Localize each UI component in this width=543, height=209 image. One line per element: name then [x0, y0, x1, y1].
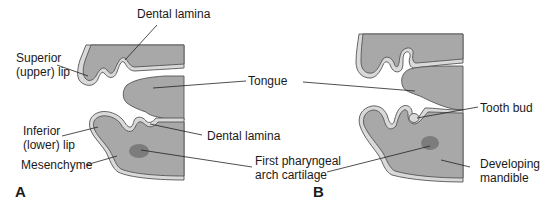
label-tongue: Tongue [248, 74, 288, 88]
label-superior-lip-1: Superior [16, 51, 61, 65]
panel-b: Tooth bud Developing mandible B [313, 34, 540, 200]
label-tooth-bud: Tooth bud [480, 101, 533, 115]
label-dental-lamina-top: Dental lamina [137, 7, 211, 21]
panel-a-label: A [15, 183, 26, 200]
label-mesenchyme: Mesenchyme [21, 158, 93, 172]
panel-a: Dental lamina Superior (upper) lip Infer… [15, 7, 281, 200]
label-dental-lamina-bottom: Dental lamina [207, 129, 281, 143]
label-developing-mandible-2: mandible [480, 171, 529, 185]
label-first-pharyngeal-2: arch cartilage [255, 168, 327, 182]
label-superior-lip-2: (upper) lip [16, 65, 70, 79]
panel-b-label: B [313, 183, 324, 200]
label-inferior-lip-1: Inferior [23, 124, 60, 138]
panel-b-tongue [402, 66, 463, 110]
panel-a-lower-jaw [89, 111, 184, 180]
embryo-oral-development-diagram: Dental lamina Superior (upper) lip Infer… [0, 0, 543, 209]
label-first-pharyngeal-1: First pharyngeal [255, 154, 341, 168]
label-developing-mandible-1: Developing [480, 157, 540, 171]
panel-a-tongue [123, 76, 184, 120]
panel-b-lower-jaw [359, 105, 463, 182]
label-inferior-lip-2: (lower) lip [23, 138, 75, 152]
